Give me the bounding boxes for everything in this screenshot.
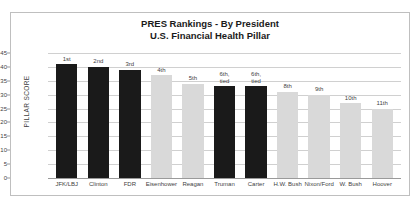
y-axis-title: PILLAR SCORE [23,57,30,147]
y-tick-label-35: 35 [0,78,7,84]
x-axis-label-7: H.W. Bush [272,181,304,195]
y-tick-mark-20 [7,122,10,123]
chart-title-block: PRES Rankings - By President U.S. Financ… [11,18,409,41]
y-axis-ticks: 454035302520151050 [0,53,9,178]
bar-slot: 8th [272,53,304,178]
bar-rank-label: 11th [377,100,388,107]
bar-slot: 11th [366,53,398,178]
x-axis-label-10: Hoover [366,181,398,195]
y-tick-mark-15 [7,136,10,137]
bar[interactable]: 10th [340,103,361,178]
bar-slot: 9th [303,53,335,178]
bar-rank-label: 6th, tied [251,71,261,84]
y-tick-label-10: 10 [0,147,7,153]
chart-subtitle: U.S. Financial Health Pillar [11,30,409,42]
bar[interactable]: 8th [277,92,298,178]
bar-slot: 3rd [114,53,146,178]
y-tick-label-15: 15 [0,133,7,139]
bar[interactable]: 5th [182,84,203,178]
y-tick-mark-25 [7,108,10,109]
chart-container: PRES Rankings - By President U.S. Financ… [10,12,410,196]
bar-rank-label: 4th [157,67,165,74]
y-tick-label-20: 20 [0,119,7,125]
x-axis-label-0: JFK/LBJ [51,181,83,195]
bar-slot: 10th [335,53,367,178]
bar-series: 1st2nd3rd4th5th6th, tied6th, tied8th9th1… [48,53,401,178]
bar-slot: 4th [146,53,178,178]
x-axis-label-6: Carter [240,181,272,195]
y-tick-mark-10 [7,150,10,151]
bar[interactable]: 4th [151,75,172,178]
y-tick-label-40: 40 [0,64,7,70]
y-tick-label-30: 30 [0,92,7,98]
bar[interactable]: 9th [308,95,329,178]
x-axis-label-8: Nixon/Ford [303,181,335,195]
bar-rank-label: 9th [315,86,323,93]
x-axis-label-2: FDR [114,181,146,195]
bar[interactable]: 11th [372,109,393,178]
plot-area: 1st2nd3rd4th5th6th, tied6th, tied8th9th1… [48,53,401,178]
bar-rank-label: 1st [63,56,71,63]
bar[interactable]: 3rd [119,70,140,178]
bar-rank-label: 5th [189,75,197,82]
bar-rank-label: 8th [283,83,291,90]
y-tick-mark-40 [7,66,10,67]
y-tick-mark-35 [7,80,10,81]
bar-rank-label: 10th [345,95,357,102]
y-tick-label-25: 25 [0,106,7,112]
bar-slot: 6th, tied [240,53,272,178]
chart-title: PRES Rankings - By President [11,18,409,30]
x-axis-label-3: Eisenhower [146,181,178,195]
bar-rank-label: 3rd [126,61,135,68]
bar-rank-label: 6th, tied [219,71,229,84]
bar[interactable]: 1st [56,64,77,178]
bar-slot: 2nd [83,53,115,178]
x-axis-label-5: Truman [209,181,241,195]
y-tick-mark-45 [7,53,10,54]
bar[interactable]: 6th, tied [214,86,235,178]
x-axis-label-9: W. Bush [335,181,367,195]
bar-slot: 6th, tied [209,53,241,178]
y-tick-mark-5 [7,164,10,165]
y-tick-mark-0 [7,178,10,179]
bar[interactable]: 6th, tied [245,86,266,178]
bar[interactable]: 2nd [88,67,109,178]
y-tick-label-45: 45 [0,50,7,56]
x-axis-labels: JFK/LBJClintonFDREisenhowerReaganTrumanC… [48,181,401,195]
bar-rank-label: 2nd [93,58,103,65]
bar-slot: 1st [51,53,83,178]
y-tick-mark-30 [7,94,10,95]
bar-slot: 5th [177,53,209,178]
x-axis-label-4: Reagan [177,181,209,195]
gridline-0 [48,178,401,179]
x-axis-label-1: Clinton [83,181,115,195]
